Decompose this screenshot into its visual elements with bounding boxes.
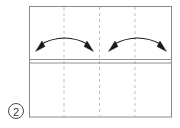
paper-lower-face [30,63,172,117]
fold-edge-group [30,60,172,64]
origami-diagram-stage: 2 [0,0,180,128]
paper-group [30,7,172,118]
origami-step-diagram: 2 [0,0,180,128]
step-badge-label: 2 [13,106,19,118]
circled-step-number: 2 [9,104,24,119]
paper-upper-face [30,7,172,60]
